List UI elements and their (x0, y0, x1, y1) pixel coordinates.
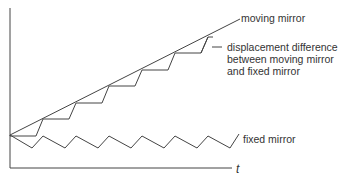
fixed-mirror-label: fixed mirror (243, 133, 296, 145)
displacement-label-line2: between moving mirror (227, 53, 334, 65)
displacement-label-line1: displacement difference (227, 41, 338, 53)
staircase-final-step (201, 37, 208, 53)
displacement-label-line3: and fixed mirror (227, 65, 300, 77)
interferometer-displacement-diagram: t moving mirror displacement difference … (0, 0, 342, 180)
displacement-difference-staircase (10, 37, 213, 136)
x-axis-label: t (236, 162, 240, 176)
fixed-mirror-zigzag (10, 134, 239, 148)
moving-mirror-label: moving mirror (241, 12, 306, 24)
moving-mirror-line (10, 19, 240, 135)
